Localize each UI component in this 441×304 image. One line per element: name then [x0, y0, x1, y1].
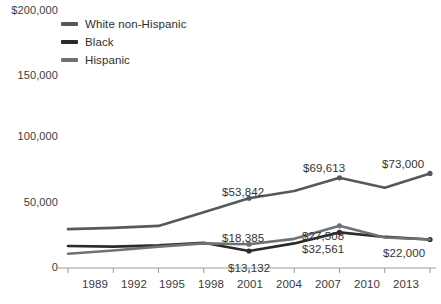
- data-label: $27,508: [302, 230, 344, 242]
- data-label: $69,613: [303, 162, 345, 174]
- data-label: $22,000: [383, 247, 425, 259]
- data-label: $73,000: [382, 158, 424, 170]
- data-label: $53,842: [222, 186, 264, 198]
- data-label: $13,132: [228, 262, 270, 274]
- chart-plot: [0, 0, 441, 304]
- chart-container: $200,000 150,000 100,000 50,000 0 White …: [0, 0, 441, 304]
- x-axis-tick-label: 2013: [382, 278, 430, 290]
- data-label: $18,385: [222, 232, 264, 244]
- data-label: $32,561: [302, 243, 344, 255]
